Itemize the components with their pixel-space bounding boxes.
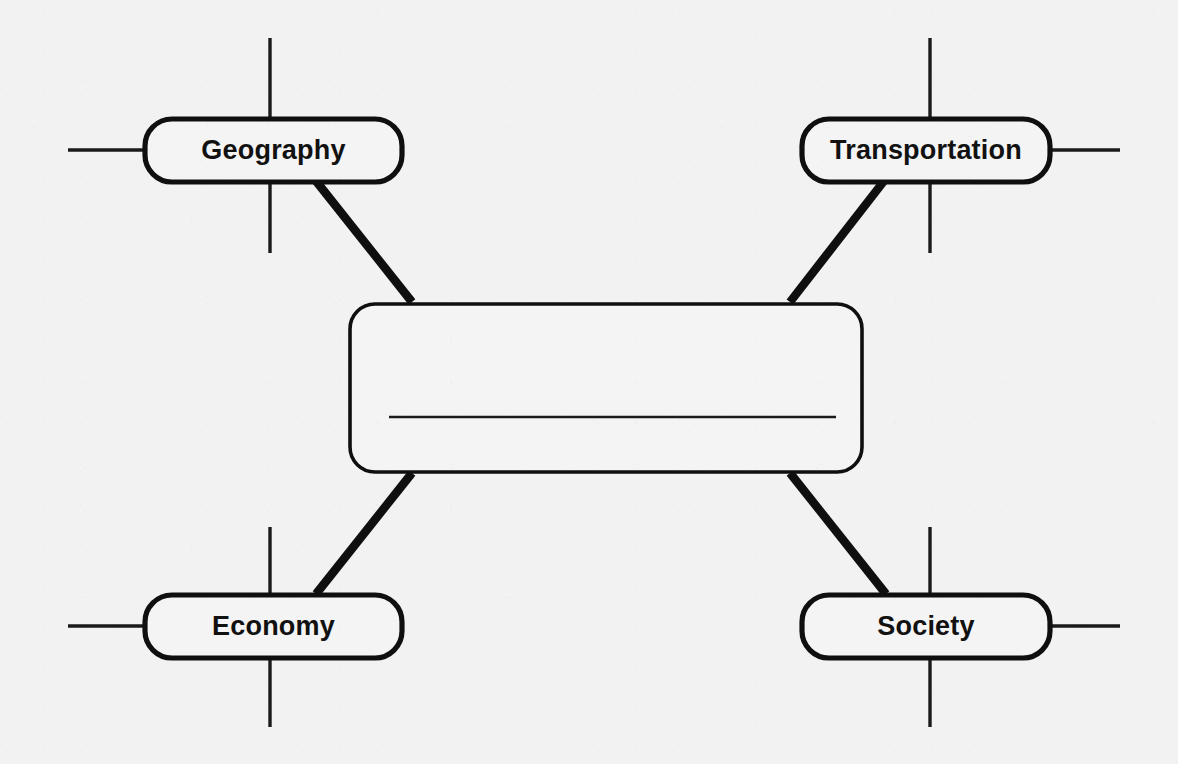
- center-box-label: [350, 304, 862, 404]
- node-label-transportation: Transportation: [802, 119, 1050, 182]
- node-label-geography: Geography: [145, 119, 402, 182]
- node-label-economy: Economy: [145, 595, 402, 658]
- connector-transportation-to-center: [790, 181, 884, 302]
- connector-geography-to-center: [316, 181, 412, 302]
- node-label-society: Society: [802, 595, 1050, 658]
- concept-map-diagram: Geography Transportation Economy Society: [0, 0, 1178, 764]
- connector-center-to-society: [790, 473, 886, 594]
- connector-center-to-economy: [316, 473, 412, 594]
